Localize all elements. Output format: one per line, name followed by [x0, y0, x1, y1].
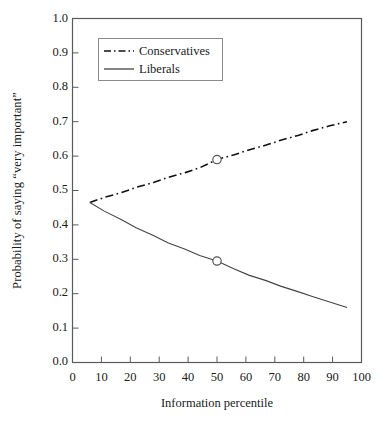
x-tick-marks: [73, 357, 362, 363]
x-tick-label: 60: [231, 371, 261, 383]
series-line-liberals: [90, 203, 347, 308]
data-point-marker-conservatives: [213, 155, 221, 163]
x-tick-label: 10: [86, 371, 116, 383]
x-axis-title: Information percentile: [72, 396, 362, 411]
y-tick-marks: [73, 19, 79, 363]
x-tick-label: 0: [58, 371, 88, 383]
data-series-layer: [90, 122, 347, 308]
chart-figure: Probability of saying “very important” 1…: [0, 0, 388, 427]
x-tick-label: 90: [318, 371, 348, 383]
x-tick-label: 70: [260, 371, 290, 383]
x-tick-label: 100: [347, 371, 377, 383]
x-tick-label: 50: [202, 371, 232, 383]
x-tick-label: 30: [144, 371, 174, 383]
x-axis-tick-labels: 0 10 20 30 40 50 60 70 80 90 100: [0, 371, 388, 391]
data-point-marker-liberals: [213, 257, 221, 265]
x-tick-label: 20: [115, 371, 145, 383]
legend-label-conservatives: Conservatives: [139, 44, 210, 59]
x-tick-label: 80: [289, 371, 319, 383]
x-tick-label: 40: [173, 371, 203, 383]
plot-area: [0, 0, 388, 427]
legend-label-liberals: Liberals: [139, 62, 180, 77]
